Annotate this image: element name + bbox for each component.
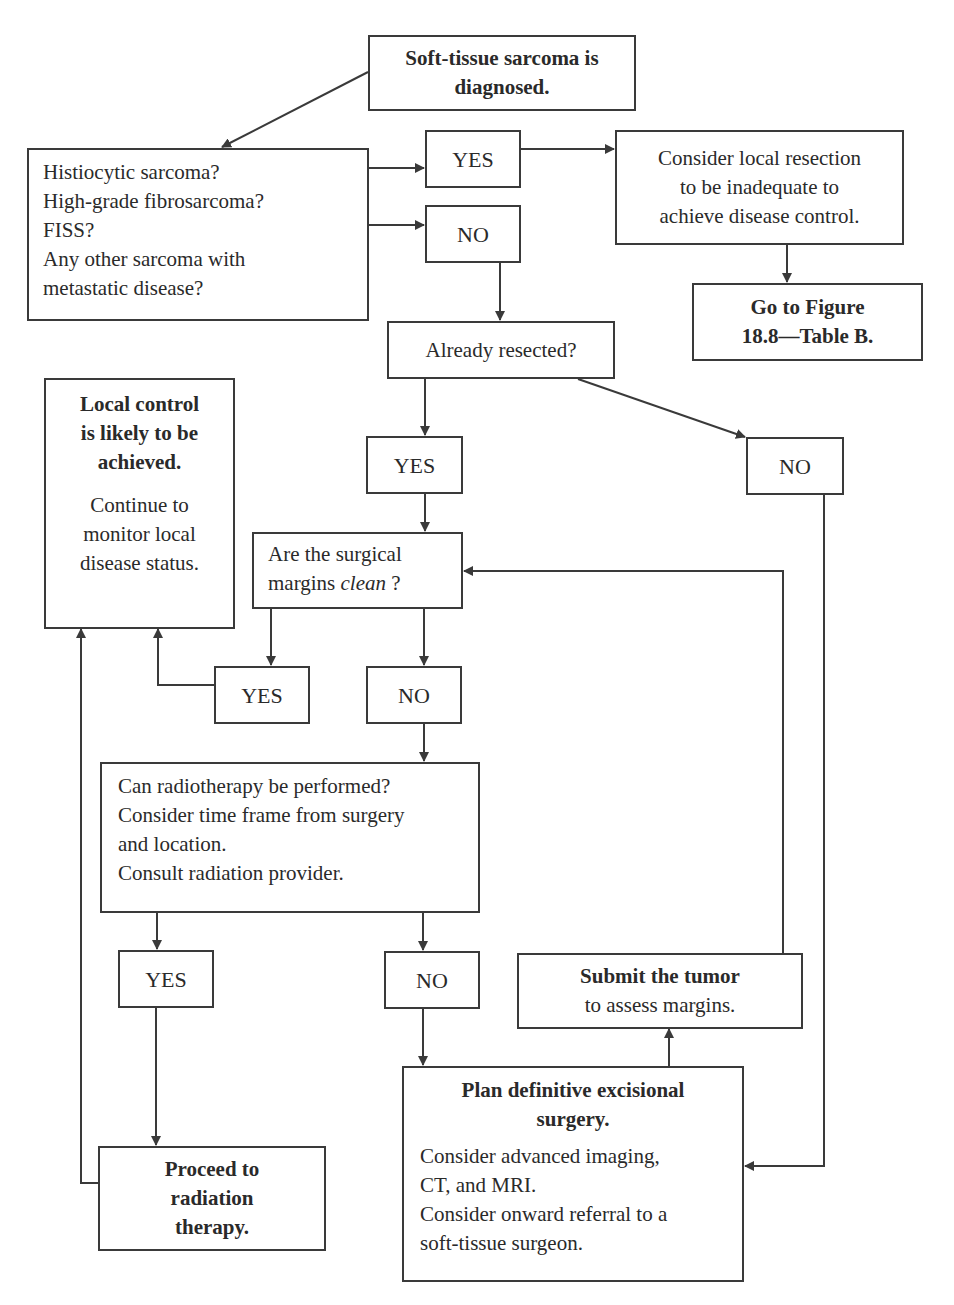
node-no-4: NO xyxy=(384,951,480,1009)
margins-suffix: ? xyxy=(386,571,401,595)
radio-line-1: Can radiotherapy be performed? xyxy=(118,772,462,801)
arrow-resected-to-no2 xyxy=(578,379,745,437)
radio-line-4: Consult radiation provider. xyxy=(118,859,462,888)
margins-line-2: margins clean ? xyxy=(268,569,447,598)
radio-line-3: and location. xyxy=(118,830,462,859)
proceed-line-1: Proceed to xyxy=(165,1155,260,1184)
node-yes-4: YES xyxy=(118,950,214,1008)
plan-body-1: Consider advanced imaging, xyxy=(420,1142,726,1171)
plan-body-3: Consider onward referral to a xyxy=(420,1200,726,1229)
localcontrol-title-3: achieved. xyxy=(98,448,181,477)
node-start: Soft-tissue sarcoma is diagnosed. xyxy=(368,35,636,111)
goto-line-2: 18.8—Table B. xyxy=(742,322,874,351)
yes-3-label: YES xyxy=(241,681,283,710)
arrow-yes3-to-localcontrol xyxy=(158,629,214,685)
consider-line-2: to be inadequate to xyxy=(680,173,839,202)
localcontrol-title-1: Local control xyxy=(80,390,199,419)
node-radiotherapy-question: Can radiotherapy be performed? Consider … xyxy=(100,762,480,913)
plan-title-2: surgery. xyxy=(420,1105,726,1134)
node-no-2: NO xyxy=(746,437,844,495)
spacer xyxy=(420,1134,726,1142)
resected-line-1: Already resected? xyxy=(426,336,577,365)
highrisk-line-3: FISS? xyxy=(43,216,353,245)
no-3-label: NO xyxy=(398,681,430,710)
node-yes-1: YES xyxy=(425,130,521,188)
node-high-risk-question: Histiocytic sarcoma? High-grade fibrosar… xyxy=(27,148,369,321)
yes-2-label: YES xyxy=(394,451,436,480)
node-consider-local-resection: Consider local resection to be inadequat… xyxy=(615,130,904,245)
node-plan-surgery: Plan definitive excisional surgery. Cons… xyxy=(402,1066,744,1282)
no-1-label: NO xyxy=(457,220,489,249)
highrisk-line-5: metastatic disease? xyxy=(43,274,353,303)
plan-title-1: Plan definitive excisional xyxy=(420,1076,726,1105)
node-goto-figure: Go to Figure 18.8—Table B. xyxy=(692,283,923,361)
node-surgical-margins: Are the surgical margins clean ? xyxy=(252,532,463,609)
highrisk-line-4: Any other sarcoma with xyxy=(43,245,353,274)
localcontrol-body-1: Continue to xyxy=(90,491,189,520)
margins-italic: clean xyxy=(341,571,386,595)
yes-4-label: YES xyxy=(145,965,187,994)
node-no-3: NO xyxy=(366,666,462,724)
no-4-label: NO xyxy=(416,966,448,995)
node-yes-2: YES xyxy=(366,436,463,494)
localcontrol-body-3: disease status. xyxy=(80,549,199,578)
node-no-1: NO xyxy=(425,205,521,263)
node-submit-tumor: Submit the tumor to assess margins. xyxy=(517,953,803,1029)
localcontrol-title-2: is likely to be xyxy=(81,419,198,448)
plan-body-2: CT, and MRI. xyxy=(420,1171,726,1200)
submit-title: Submit the tumor xyxy=(580,962,740,991)
margins-prefix: margins xyxy=(268,571,341,595)
yes-1-label: YES xyxy=(452,145,494,174)
plan-body-4: soft-tissue surgeon. xyxy=(420,1229,726,1258)
node-yes-3: YES xyxy=(214,666,310,724)
no-2-label: NO xyxy=(779,452,811,481)
highrisk-line-2: High-grade fibrosarcoma? xyxy=(43,187,353,216)
arrow-no2-to-plan xyxy=(745,495,824,1166)
consider-line-1: Consider local resection xyxy=(658,144,861,173)
arrow-submit-to-margins xyxy=(464,571,783,953)
start-line-1: Soft-tissue sarcoma is xyxy=(405,44,598,73)
radio-line-2: Consider time frame from surgery xyxy=(118,801,462,830)
arrow-start-to-highrisk xyxy=(222,72,368,147)
node-proceed-radiation: Proceed to radiation therapy. xyxy=(98,1146,326,1251)
node-already-resected: Already resected? xyxy=(387,321,615,379)
node-local-control: Local control is likely to be achieved. … xyxy=(44,378,235,629)
start-line-2: diagnosed. xyxy=(454,73,549,102)
consider-line-3: achieve disease control. xyxy=(660,202,860,231)
margins-line-1: Are the surgical xyxy=(268,540,447,569)
proceed-line-3: therapy. xyxy=(175,1213,249,1242)
localcontrol-body-2: monitor local xyxy=(83,520,196,549)
goto-line-1: Go to Figure xyxy=(751,293,865,322)
arrow-proceed-to-localcontrol xyxy=(81,629,98,1183)
proceed-line-2: radiation xyxy=(171,1184,254,1213)
submit-body: to assess margins. xyxy=(585,991,736,1020)
highrisk-line-1: Histiocytic sarcoma? xyxy=(43,158,353,187)
